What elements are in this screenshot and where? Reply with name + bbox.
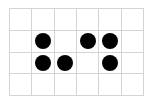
board-cell-r0-c5[interactable] [122, 9, 144, 31]
game-board [9, 8, 144, 96]
dot-piece[interactable] [102, 55, 118, 71]
board-cell-r0-c3[interactable] [77, 9, 99, 31]
board-cell-r1-c4[interactable] [99, 31, 121, 53]
board-cell-r0-c2[interactable] [55, 9, 77, 31]
board-cell-r1-c3[interactable] [77, 31, 99, 53]
board-cell-r0-c1[interactable] [32, 9, 54, 31]
board-cell-r1-c0[interactable] [10, 31, 32, 53]
board-cell-r2-c4[interactable] [99, 53, 121, 75]
dot-piece[interactable] [80, 33, 96, 49]
board-cell-r2-c1[interactable] [32, 53, 54, 75]
board-cell-r3-c2[interactable] [55, 74, 77, 96]
board-cell-r0-c4[interactable] [99, 9, 121, 31]
board-cell-r2-c3[interactable] [77, 53, 99, 75]
dot-piece[interactable] [35, 55, 51, 71]
board-cell-r0-c0[interactable] [10, 9, 32, 31]
board-cell-r3-c0[interactable] [10, 74, 32, 96]
board-cell-r3-c3[interactable] [77, 74, 99, 96]
board-cell-r2-c0[interactable] [10, 53, 32, 75]
board-cell-r1-c2[interactable] [55, 31, 77, 53]
board-cell-r2-c2[interactable] [55, 53, 77, 75]
board-cell-r2-c5[interactable] [122, 53, 144, 75]
board-cell-r1-c5[interactable] [122, 31, 144, 53]
dot-piece[interactable] [57, 55, 73, 71]
board-cell-r3-c1[interactable] [32, 74, 54, 96]
dot-piece[interactable] [35, 33, 51, 49]
dot-piece[interactable] [102, 33, 118, 49]
board-cell-r3-c4[interactable] [99, 74, 121, 96]
board-cell-r1-c1[interactable] [32, 31, 54, 53]
board-cell-r3-c5[interactable] [122, 74, 144, 96]
